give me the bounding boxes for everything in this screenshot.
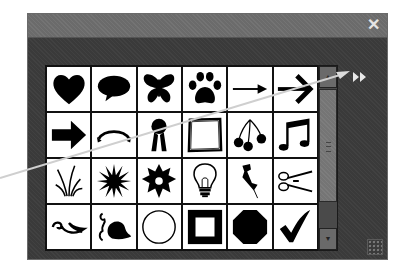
ornament-icon [50,208,88,246]
award-ribbon-icon [140,116,178,154]
shape-cell-heart[interactable] [47,67,90,111]
shape-cell-award-ribbon[interactable] [138,113,181,157]
vertical-scrollbar[interactable]: ▲ ▼ [318,65,338,251]
thumb-grip-icon [326,142,331,152]
shape-cell-block-arrow[interactable] [47,113,90,157]
grass-icon [50,162,88,200]
music-note-icon [276,116,314,154]
shape-cell-grass[interactable] [47,159,90,203]
starburst-icon [95,162,133,200]
shape-cell-snowflake[interactable] [138,159,181,203]
banner-icon [95,116,133,154]
square-frame-icon [186,208,224,246]
shape-cell-push-pin[interactable] [228,159,271,203]
custom-shape-picker-panel: ✕ [27,13,388,260]
floral-ornament-icon [95,208,133,246]
shape-cell-banner[interactable] [92,113,135,157]
rough-frame-icon [186,116,224,154]
shape-cell-checkmark[interactable] [274,205,317,249]
scroll-thumb[interactable] [319,89,337,202]
shape-cell-starburst[interactable] [92,159,135,203]
shape-cell-thin-arrow[interactable] [228,67,271,111]
scroll-down-button[interactable]: ▼ [319,228,337,250]
snowflake-icon [140,162,178,200]
shape-cell-rough-frame[interactable] [183,113,226,157]
shape-cell-square-frame[interactable] [183,205,226,249]
thin-arrow-icon [231,70,269,108]
shape-grid [45,65,319,251]
shape-cell-floral-ornament[interactable] [92,205,135,249]
shape-cell-octagon[interactable] [228,205,271,249]
block-arrow-icon [50,116,88,154]
shape-cell-cherries[interactable] [228,113,271,157]
panel-menu-button[interactable] [352,69,368,81]
paw-print-icon [186,70,224,108]
shape-cell-paw-print[interactable] [183,67,226,111]
butterfly-icon [140,70,178,108]
speech-bubble-icon [95,70,133,108]
resize-grip[interactable] [367,239,383,255]
cherries-icon [231,116,269,154]
shape-cell-music-note[interactable] [274,113,317,157]
octagon-icon [231,208,269,246]
circle-outline-icon [140,208,178,246]
shape-cell-ornament[interactable] [47,205,90,249]
close-button[interactable]: ✕ [365,17,381,33]
bold-arrow-icon [276,70,314,108]
shape-cell-scissors[interactable] [274,159,317,203]
checkmark-icon [276,208,314,246]
shape-cell-light-bulb[interactable] [183,159,226,203]
push-pin-icon [231,162,269,200]
shape-cell-speech-bubble[interactable] [92,67,135,111]
light-bulb-icon [186,162,224,200]
shape-cell-bold-arrow[interactable] [274,67,317,111]
scroll-up-button[interactable]: ▲ [319,66,337,88]
double-triangle-icon [352,71,368,83]
shape-cell-circle-outline[interactable] [138,205,181,249]
scissors-icon [276,162,314,200]
heart-icon [50,70,88,108]
panel-titlebar[interactable]: ✕ [28,14,387,38]
shape-cell-butterfly[interactable] [138,67,181,111]
